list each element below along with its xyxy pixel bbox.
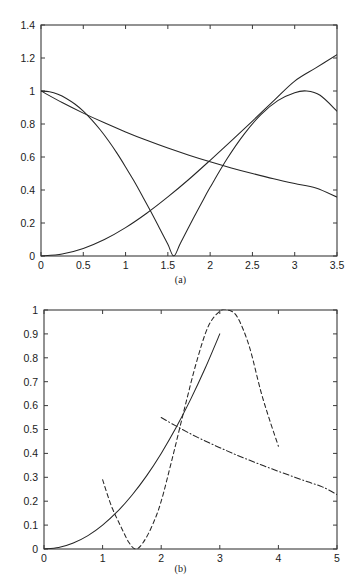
x-tick-label: 3 (292, 259, 298, 271)
curve-dashdot-decaying (161, 418, 337, 495)
axis-frame (44, 310, 337, 549)
plot-area (44, 309, 337, 549)
x-tick-label: 2 (207, 259, 213, 271)
y-tick-label: 0.4 (23, 447, 38, 459)
chart-b: 01234500.10.20.30.40.50.60.70.80.91 (0, 292, 361, 587)
curve-decaying (41, 91, 337, 197)
y-tick-label: 0 (29, 250, 35, 262)
figure-panel-a: 00.511.522.533.500.20.40.60.811.21.4 (a) (0, 0, 361, 292)
curve-solid-rising (44, 334, 220, 549)
y-tick-label: 0.3 (23, 471, 38, 483)
x-tick-label: 0.5 (76, 259, 91, 271)
y-tick-label: 1 (32, 304, 38, 316)
caption-a: (a) (0, 274, 361, 285)
y-tick-label: 0.6 (20, 151, 35, 163)
curve-dashed-v (103, 309, 279, 549)
y-tick-label: 0.2 (20, 217, 35, 229)
y-tick-label: 0.6 (23, 399, 38, 411)
x-tick-label: 1 (123, 259, 129, 271)
curve-cosine (41, 91, 337, 256)
x-tick-label: 0 (38, 259, 44, 271)
y-tick-label: 0.5 (23, 423, 38, 435)
figure-panel-b: 01234500.10.20.30.40.50.60.70.80.91 (b) (0, 292, 361, 587)
caption-b: (b) (0, 563, 361, 574)
y-tick-label: 0 (32, 543, 38, 555)
y-tick-label: 1.4 (20, 19, 35, 31)
y-tick-label: 0.7 (23, 376, 38, 388)
x-tick-label: 2.5 (245, 259, 260, 271)
x-tick-label: 3.5 (330, 259, 345, 271)
y-tick-label: 0.8 (23, 352, 38, 364)
x-tick-label: 1.5 (161, 259, 176, 271)
y-tick-label: 0.4 (20, 184, 35, 196)
y-tick-label: 0.2 (23, 495, 38, 507)
y-tick-label: 0.8 (20, 118, 35, 130)
axis-frame (41, 25, 337, 256)
y-tick-label: 1 (29, 85, 35, 97)
chart-a: 00.511.522.533.500.20.40.60.811.21.4 (0, 0, 361, 292)
y-tick-label: 1.2 (20, 52, 35, 64)
y-tick-label: 0.9 (23, 328, 38, 340)
y-tick-label: 0.1 (23, 519, 38, 531)
plot-area (41, 55, 337, 256)
